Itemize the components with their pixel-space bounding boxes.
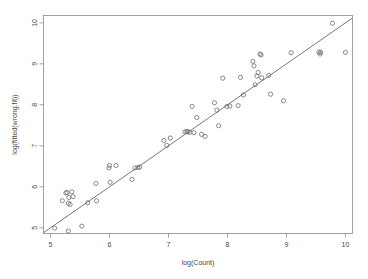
data-point	[236, 104, 240, 108]
data-point	[168, 136, 172, 140]
identity-reference-line	[44, 18, 353, 233]
x-tick-label: 10	[342, 241, 350, 248]
data-point	[94, 199, 98, 203]
reference-line	[44, 18, 353, 233]
data-point	[80, 224, 84, 228]
data-point	[108, 180, 112, 184]
data-point	[66, 229, 70, 233]
data-point	[190, 104, 194, 108]
data-point	[107, 163, 111, 167]
y-tick-label: 10	[31, 19, 38, 27]
y-tick-label: 5	[31, 226, 38, 230]
data-point	[71, 195, 75, 199]
data-point	[281, 99, 285, 103]
data-point	[162, 138, 166, 142]
x-tick-label: 8	[226, 241, 230, 248]
data-point	[70, 190, 74, 194]
x-tick-label: 5	[49, 241, 53, 248]
x-tick-label: 6	[108, 241, 112, 248]
x-tick-label: 9	[285, 241, 289, 248]
y-axis-ticks: 5678910	[31, 19, 44, 230]
data-point	[256, 70, 260, 74]
y-tick-label: 8	[31, 103, 38, 107]
y-tick-label: 7	[31, 144, 38, 148]
data-point	[251, 59, 255, 63]
data-point	[268, 92, 272, 96]
scatter-plot-figure: 5678910 5678910 log(Count) log(fitted(wr…	[0, 0, 368, 279]
data-point	[217, 124, 221, 128]
data-point	[60, 199, 64, 203]
data-point	[228, 104, 232, 108]
data-point	[94, 181, 98, 185]
data-point	[259, 53, 263, 57]
x-axis-title: log(Count)	[182, 259, 215, 267]
plot-canvas: 5678910 5678910 log(Count) log(fitted(wr…	[0, 0, 368, 279]
data-point	[114, 163, 118, 167]
data-point	[215, 108, 219, 112]
x-axis-ticks: 5678910	[49, 234, 350, 248]
data-point	[289, 51, 293, 55]
data-points-layer	[53, 21, 348, 233]
y-tick-label: 6	[31, 185, 38, 189]
data-point	[343, 50, 347, 54]
y-axis-title: log(fitted(wrong.fit))	[11, 94, 19, 154]
data-point	[252, 64, 256, 68]
data-point	[192, 131, 196, 135]
data-point	[67, 195, 71, 199]
data-point	[238, 75, 242, 79]
data-point	[195, 115, 199, 119]
data-point	[212, 101, 216, 105]
data-point	[330, 21, 334, 25]
data-point	[260, 76, 264, 80]
y-tick-label: 9	[31, 62, 38, 66]
data-point	[53, 226, 57, 230]
data-point	[130, 177, 134, 181]
data-point	[221, 76, 225, 80]
data-point	[203, 134, 207, 138]
x-tick-label: 7	[167, 241, 171, 248]
